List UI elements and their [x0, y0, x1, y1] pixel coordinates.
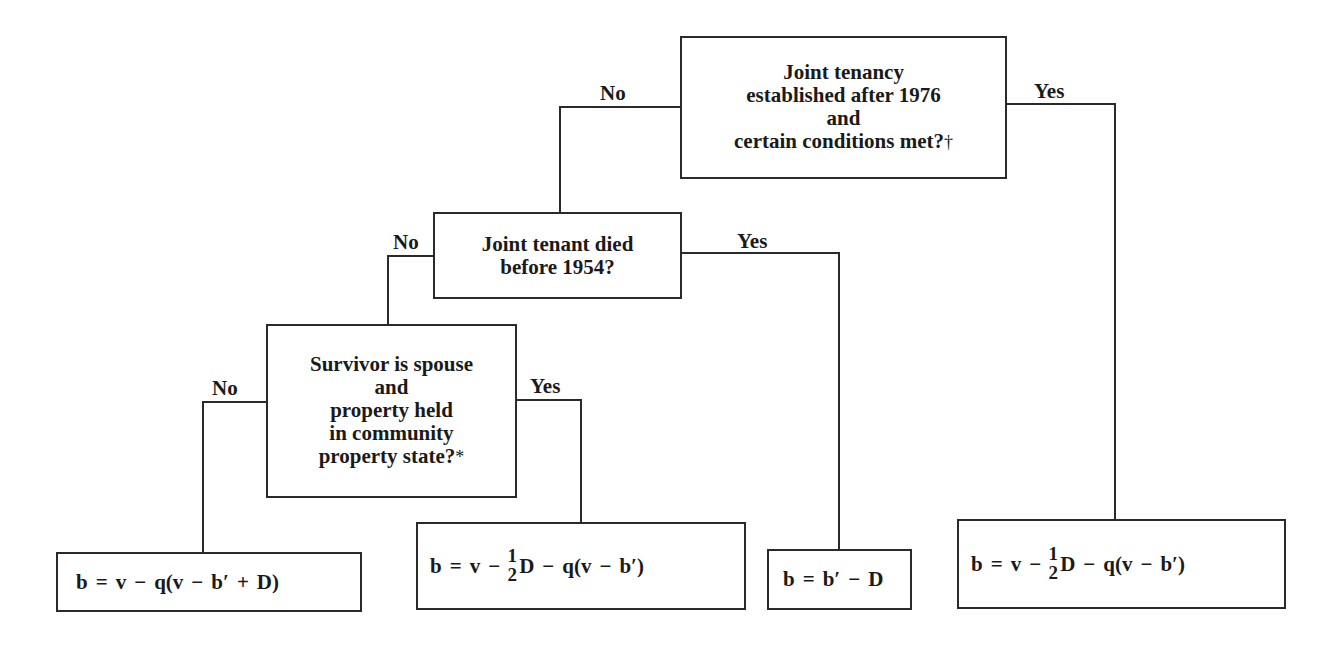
fraction-one-half: 1 2 — [1047, 544, 1059, 582]
node-text-line: in community — [329, 422, 453, 445]
fraction-one-half: 1 2 — [506, 546, 518, 584]
formula-term: − — [848, 567, 860, 592]
formula-term: = — [450, 554, 462, 579]
outcome-formula-f1: b = v − q(v − b′ + D) — [56, 552, 362, 612]
node-text: certain conditions met? — [734, 129, 944, 153]
formula-term: − — [599, 554, 611, 579]
formula-term: − — [542, 554, 554, 579]
node-text-line: and — [375, 376, 409, 399]
node-text-line: property state?* — [319, 445, 465, 469]
edge-q3-yes — [515, 400, 581, 523]
node-text-line: established after 1976 — [746, 84, 940, 107]
formula-term: v — [1011, 552, 1022, 577]
formula-term: = — [96, 570, 108, 595]
formula-term: D — [1060, 552, 1075, 577]
formula-term: v — [116, 570, 127, 595]
formula-term: b — [430, 554, 442, 579]
node-text-line: Joint tenancy — [783, 61, 904, 84]
decision-node-died-before-1954: Joint tenant died before 1954? — [433, 212, 682, 299]
node-text-line: property held — [330, 399, 453, 422]
formula-term: D — [519, 554, 534, 579]
formula-term: b — [76, 570, 88, 595]
formula-term: b′ — [823, 567, 841, 592]
formula-term: − — [191, 570, 203, 595]
edge-q2-yes — [681, 253, 839, 550]
formula-term: q(v — [154, 570, 183, 595]
formula-term: b — [783, 567, 795, 592]
formula-term: q(v — [1103, 552, 1132, 577]
branch-label-q1-no: No — [600, 82, 626, 104]
formula-term: = — [991, 552, 1003, 577]
fraction-numerator: 1 — [507, 546, 517, 565]
decision-node-spouse-community-property: Survivor is spouse and property held in … — [266, 324, 517, 498]
outcome-formula-f2: b = v − 1 2 D − q(v − b′) — [416, 522, 746, 610]
node-text-line: Survivor is spouse — [310, 353, 473, 376]
edge-q3-no — [203, 402, 267, 553]
formula-term: = — [803, 567, 815, 592]
branch-label-q1-yes: Yes — [1034, 80, 1064, 102]
formula-term: D) — [257, 570, 279, 595]
formula-term: q(v — [562, 554, 591, 579]
formula-term: − — [1029, 552, 1041, 577]
branch-label-q3-yes: Yes — [530, 375, 560, 397]
branch-label-q2-yes: Yes — [737, 230, 767, 252]
formula-term: b — [971, 552, 983, 577]
decision-node-joint-tenancy-after-1976: Joint tenancy established after 1976 and… — [680, 36, 1007, 179]
node-text: property state? — [319, 444, 456, 468]
formula-term: v — [470, 554, 481, 579]
formula-term: b′) — [1160, 552, 1185, 577]
edge-q1-no — [560, 107, 680, 213]
formula-term: − — [134, 570, 146, 595]
branch-label-q3-no: No — [212, 377, 238, 399]
formula-term: b′) — [619, 554, 644, 579]
asterisk-footnote-mark: * — [455, 447, 464, 467]
node-text-line: and — [827, 107, 861, 130]
node-text-line: Joint tenant died — [482, 233, 634, 256]
formula-term: D — [868, 567, 883, 592]
edge-q1-yes — [1006, 104, 1115, 520]
outcome-formula-f4: b = v − 1 2 D − q(v − b′) — [957, 519, 1286, 609]
dagger-footnote-mark: † — [944, 132, 953, 152]
outcome-formula-f3: b = b′ − D — [767, 549, 912, 610]
formula-term: + — [237, 570, 249, 595]
edge-q2-no — [388, 256, 434, 325]
formula-term: − — [1083, 552, 1095, 577]
node-text-line: certain conditions met?† — [734, 130, 953, 154]
fraction-denominator: 2 — [507, 565, 517, 584]
fraction-denominator: 2 — [1048, 563, 1058, 582]
fraction-numerator: 1 — [1048, 544, 1058, 563]
formula-term: b′ — [211, 570, 229, 595]
formula-term: − — [488, 554, 500, 579]
branch-label-q2-no: No — [393, 231, 419, 253]
formula-term: − — [1140, 552, 1152, 577]
node-text-line: before 1954? — [500, 256, 615, 279]
